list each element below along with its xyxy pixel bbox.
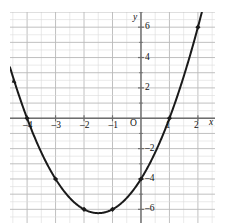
x-axis-label: x bbox=[209, 117, 213, 127]
origin-label: O bbox=[130, 118, 137, 128]
plot-area bbox=[10, 12, 215, 223]
y-axis-label: y bbox=[133, 12, 137, 22]
curve-and-points bbox=[10, 12, 215, 223]
x-tick-label: 1 bbox=[165, 120, 170, 130]
y-tick-label: –6 bbox=[145, 203, 155, 213]
parabola-graph-figure: y x O –4–3–2–112–6–4–2246 bbox=[0, 0, 225, 223]
x-tick-label: –4 bbox=[23, 120, 33, 130]
x-tick-label: –1 bbox=[109, 120, 119, 130]
y-tick-label: 6 bbox=[145, 21, 150, 31]
y-tick-label: –4 bbox=[145, 173, 155, 183]
x-tick-label: 2 bbox=[194, 120, 199, 130]
x-tick-label: –3 bbox=[52, 120, 62, 130]
x-tick-label: –2 bbox=[80, 120, 90, 130]
y-tick-label: 2 bbox=[145, 82, 150, 92]
y-tick-label: –2 bbox=[145, 143, 155, 153]
y-tick-label: 4 bbox=[145, 52, 150, 62]
